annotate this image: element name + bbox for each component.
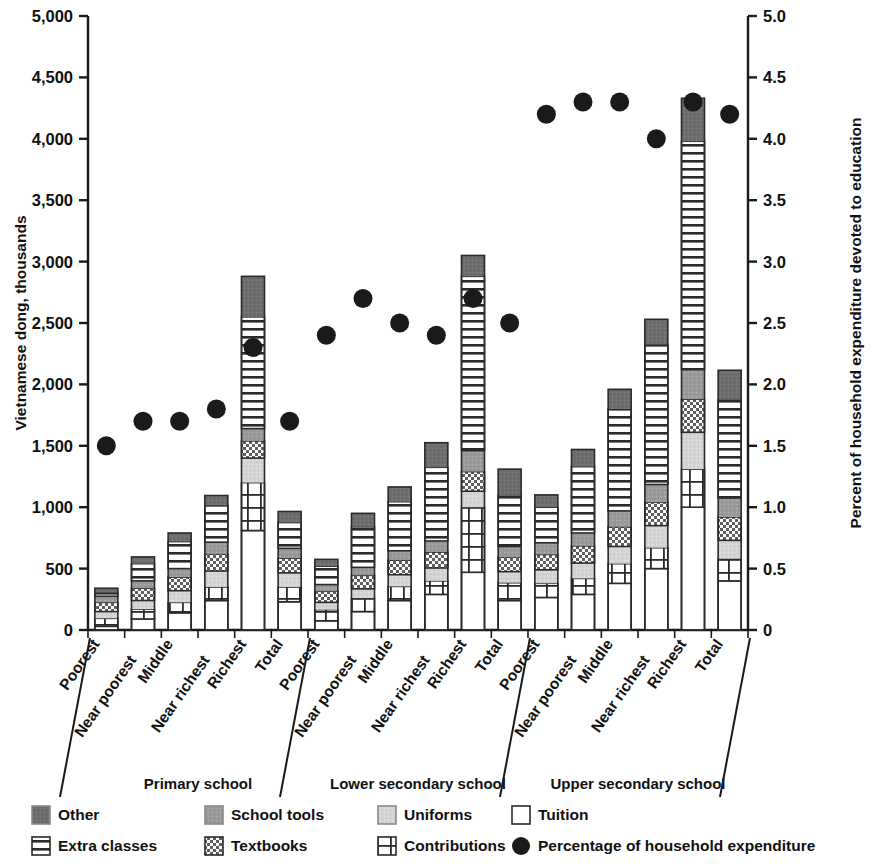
legend-label: Other: [58, 806, 99, 823]
bar-segment-extra-classes: [278, 523, 301, 549]
bar-segment-textbooks: [315, 591, 338, 602]
bar-segment-extra-classes: [682, 141, 705, 369]
legend-swatch-mediumgray-icon: [205, 806, 223, 824]
legend-item[interactable]: Textbooks: [205, 837, 307, 855]
bar-segment-extra-classes: [425, 467, 448, 541]
bar-segment-other: [205, 496, 228, 506]
y-tick-label: 500: [45, 560, 73, 578]
category-label: Middle: [134, 636, 176, 686]
stacked-bar: [462, 255, 485, 630]
bar-segment-uniforms: [242, 458, 265, 483]
y-tick-label-right: 4.5: [763, 68, 786, 86]
bar-segment-extra-classes: [95, 593, 118, 597]
bar-segment-other: [462, 255, 485, 276]
legend-item[interactable]: School tools: [205, 806, 324, 824]
y-tick-label: 3,500: [32, 191, 73, 209]
bar-segment-contributions: [608, 564, 631, 584]
bar-segment-tuition: [168, 613, 191, 630]
bar-segment-school-tools: [315, 585, 338, 592]
bar-segment-uniforms: [132, 601, 155, 610]
stacked-bar: [315, 559, 338, 630]
bar-segment-textbooks: [425, 552, 448, 568]
y-tick-label: 1,500: [32, 437, 73, 455]
legend-swatch-checker-icon: [205, 837, 223, 855]
bar-segment-contributions: [498, 583, 521, 601]
bar-segment-textbooks: [278, 558, 301, 573]
legend-item[interactable]: Uniforms: [378, 806, 472, 824]
legend-swatch-grid-icon: [378, 837, 396, 855]
bar-segment-extra-classes: [132, 564, 155, 581]
legend-swatch-dot-icon: [512, 837, 530, 855]
bar-segment-tuition: [205, 601, 228, 630]
y-tick-label-right: 0.5: [763, 560, 786, 578]
bar-segment-tuition: [682, 507, 705, 630]
overlay-dot: [134, 412, 153, 431]
legend-item[interactable]: Contributions: [378, 837, 506, 855]
bar-segment-contributions: [168, 602, 191, 612]
stacked-bar: [168, 533, 191, 630]
y-tick-label-right: 3.5: [763, 191, 786, 209]
bar-segment-other: [572, 449, 595, 466]
y-tick-label-right: 4.0: [763, 130, 786, 148]
legend-item[interactable]: Other: [32, 806, 99, 824]
legend-item[interactable]: Percentage of household expenditure: [512, 837, 816, 855]
bar-segment-extra-classes: [718, 400, 741, 498]
category-label: Poorest: [56, 636, 103, 693]
bar-segment-school-tools: [132, 581, 155, 588]
y-axis-title: Vietnamese dong, thousands: [12, 215, 29, 430]
bar-segment-tuition: [425, 594, 448, 630]
legend-label: Percentage of household expenditure: [538, 837, 816, 854]
legend-item[interactable]: Extra classes: [32, 837, 157, 855]
y-tick-label-right: 3.0: [763, 253, 786, 271]
overlay-dot: [354, 289, 373, 308]
bar-segment-other: [278, 511, 301, 522]
bar-segment-uniforms: [95, 612, 118, 619]
overlay-dot: [97, 436, 116, 455]
legend-label: Textbooks: [231, 837, 307, 854]
bar-segment-tuition: [462, 572, 485, 630]
bar-segment-school-tools: [205, 542, 228, 554]
legend-label: Uniforms: [404, 806, 472, 823]
bar-segment-contributions: [242, 483, 265, 531]
bar-segment-tuition: [608, 583, 631, 630]
overlay-dot: [720, 105, 739, 124]
bar-segment-school-tools: [278, 548, 301, 558]
bar-segment-contributions: [535, 583, 558, 597]
bar-segment-extra-classes: [315, 566, 338, 584]
legend: OtherSchool toolsUniformsTuitionExtra cl…: [32, 806, 816, 855]
bar-segment-other: [315, 559, 338, 566]
legend-label: Tuition: [538, 806, 589, 823]
bar-segment-tuition: [132, 619, 155, 630]
bar-segment-contributions: [718, 559, 741, 581]
bar-segment-uniforms: [278, 573, 301, 587]
bar-segment-tuition: [572, 594, 595, 630]
bar-segment-textbooks: [242, 441, 265, 458]
category-label: Middle: [354, 636, 396, 686]
legend-item[interactable]: Tuition: [512, 806, 589, 824]
legend-label: Contributions: [404, 837, 506, 854]
bar-segment-extra-classes: [608, 409, 631, 511]
stacked-bar: [425, 443, 448, 630]
bar-segment-uniforms: [205, 571, 228, 587]
bar-segment-school-tools: [682, 370, 705, 399]
bar-segment-textbooks: [645, 502, 668, 525]
overlay-dot: [427, 326, 446, 345]
bar-segment-textbooks: [95, 602, 118, 611]
y-tick-label-right: 2.5: [763, 314, 786, 332]
y-tick-label: 5,000: [32, 7, 73, 25]
legend-label: School tools: [231, 806, 324, 823]
bar-segment-school-tools: [462, 451, 485, 472]
bar-segment-textbooks: [352, 575, 375, 589]
bar-segment-contributions: [462, 507, 485, 572]
bar-segment-textbooks: [168, 577, 191, 591]
bar-segment-textbooks: [535, 554, 558, 569]
y-axis-right-title: Percent of household expenditure devoted…: [847, 118, 864, 529]
y-tick-label: 3,000: [32, 253, 73, 271]
bar-segment-contributions: [645, 548, 668, 569]
bar-segment-uniforms: [462, 491, 485, 507]
bar-segment-textbooks: [462, 472, 485, 492]
bar-segment-textbooks: [718, 517, 741, 540]
bar-segment-school-tools: [95, 596, 118, 602]
bar-segment-uniforms: [168, 591, 191, 603]
stacked-bar: [278, 511, 301, 630]
